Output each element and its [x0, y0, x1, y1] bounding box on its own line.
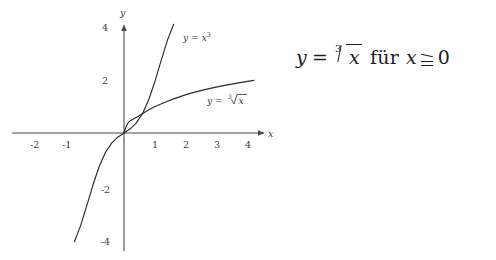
formula-connector: für [370, 46, 399, 68]
y-tick-label: 2 [102, 75, 108, 86]
y-axis-label: y [119, 7, 126, 18]
radical-radicand: x [346, 44, 362, 68]
x-axis-label: x [268, 128, 274, 139]
coordinate-plot: x y -2 -1 1 2 3 4 4 2 -2 -4 y=x3 [0, 0, 290, 260]
cubic-label-y: y [182, 33, 189, 43]
svg-text:y=: y= [206, 96, 223, 106]
x-tick-label: 1 [152, 139, 158, 150]
root-label-index: 3 [228, 93, 232, 100]
cubic-label-eq: = [191, 33, 199, 43]
formula-equals: = [312, 46, 328, 68]
cube-root-curve-label: y= 3 x [206, 93, 247, 106]
root-label-y: y [206, 96, 213, 106]
root-label-eq: = [215, 96, 223, 106]
formula-expression: y=3xfürx0 [296, 44, 492, 69]
x-tick-label: -1 [62, 139, 71, 150]
x-tick-label: 3 [214, 139, 220, 150]
y-tick-label: -4 [101, 236, 110, 247]
x-tick-label: 2 [183, 139, 189, 150]
cube-root-curve [124, 80, 254, 133]
cube-root-radical: 3x [333, 44, 362, 68]
cubic-label-exponent: 3 [207, 31, 211, 39]
plot-svg: x y -2 -1 1 2 3 4 4 2 -2 -4 y=x3 [0, 0, 290, 260]
formula-variable: x [406, 46, 417, 68]
figure-page: x y -2 -1 1 2 3 4 4 2 -2 -4 y=x3 [0, 0, 496, 260]
root-label-radicand: x [239, 96, 244, 106]
formula-lhs: y [296, 46, 307, 68]
y-tick-label: -2 [101, 184, 110, 195]
x-tick-label: 4 [245, 139, 251, 150]
y-tick-label: 4 [102, 22, 108, 33]
formula-bound: 0 [438, 46, 450, 68]
x-tick-label: -2 [30, 139, 39, 150]
greater-or-equal-icon [420, 50, 435, 69]
cubic-curve-label: y=x3 [182, 31, 211, 43]
